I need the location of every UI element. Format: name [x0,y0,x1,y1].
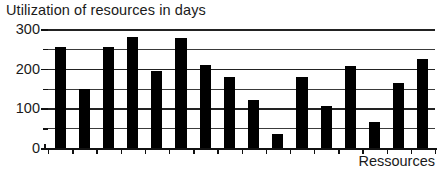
x-tick [387,149,388,154]
bar [127,37,138,148]
y-axis-tick-labels: 0100200300 [0,0,40,173]
bar [296,77,307,148]
y-tick-minor-250 [43,49,48,50]
x-tick [314,149,315,154]
bar [103,47,114,148]
x-tick [96,149,97,154]
bar [345,66,356,149]
bar [417,59,428,148]
bar [55,47,66,148]
bars-layer [48,29,435,148]
bar [248,100,259,148]
x-tick [217,149,218,154]
plot-area [48,29,435,148]
x-tick [145,149,146,154]
y-tick-minor-50 [43,128,48,129]
bar [369,122,380,148]
x-tick [362,149,363,154]
y-tick-label-300: 300 [0,22,40,36]
y-tick-100 [41,108,48,110]
bar [321,106,332,148]
x-axis-title: Ressources [358,152,435,170]
x-tick [169,149,170,154]
x-tick [48,149,49,154]
y-tick-300 [41,29,48,31]
bar [272,134,283,148]
x-tick [338,149,339,154]
x-tick [72,149,73,154]
x-tick [242,149,243,154]
y-tick-200 [41,69,48,71]
x-tick [411,149,412,154]
x-tick [266,149,267,154]
bar [200,65,211,148]
bar [79,89,90,149]
x-tick [193,149,194,154]
x-tick [290,149,291,154]
bar [393,83,404,148]
y-tick-minor-150 [43,89,48,90]
x-axis-line [44,148,437,150]
y-tick-label-0: 0 [0,141,40,155]
x-tick [435,149,436,154]
y-tick-0 [41,148,48,150]
bar [151,71,162,148]
y-tick-label-200: 200 [0,62,40,76]
bar [224,77,235,148]
bar-chart-figure: Utilization of resources in days 0100200… [0,0,441,173]
bar [175,38,186,148]
x-tick [121,149,122,154]
y-tick-label-100: 100 [0,101,40,115]
